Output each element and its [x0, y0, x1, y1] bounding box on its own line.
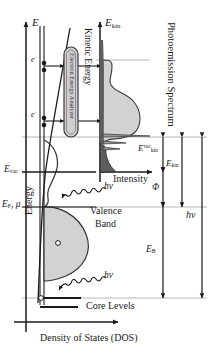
spectrum-axis-top-subscript: kin	[112, 22, 121, 29]
electron-label-2: e−	[31, 111, 37, 119]
left-axis-top-label: E	[32, 17, 39, 28]
electron-energy-analyzer-label: Electron Energy Analyzer	[68, 53, 74, 119]
photoemission-spectrum-label: Photoemission Spectrum	[166, 22, 177, 127]
photon-label-1: hν	[104, 182, 113, 192]
intensity-axis-label: Intensity	[113, 174, 148, 184]
spectrum-axis-top-label: Ekin	[105, 17, 120, 29]
electron-charge-2: −	[35, 110, 38, 115]
valence-band-label-line2: Band	[95, 219, 116, 229]
electron-charge-1: −	[35, 55, 38, 60]
e-vac-subscript: vac	[10, 168, 18, 174]
valence-band-label-line1: Valence	[90, 206, 122, 216]
e-vac-label: Evac	[4, 165, 18, 175]
photon-label-3: hν	[104, 271, 113, 281]
ekin-vac-superscript: vac	[144, 143, 151, 149]
valence-band-dos	[44, 207, 88, 281]
eb-subscript: B	[152, 248, 156, 254]
chemical-potential-symbol: , μ	[11, 199, 21, 209]
ekin-vac-subscript: kin	[151, 147, 158, 153]
e-fermi-label: EF, μ	[2, 200, 21, 210]
electron-label-1: e−	[31, 56, 37, 64]
photoelectron-markers	[42, 61, 64, 128]
spectrum-axis-top-symbol: E	[105, 16, 112, 28]
ekin-subscript: kin	[172, 162, 179, 168]
dos-axis-label: Density of States (DOS)	[40, 333, 138, 343]
measure-label-binding-energy: EB	[146, 245, 156, 255]
core-level-lines	[40, 298, 81, 307]
measure-label-work-function: Φ	[152, 183, 159, 193]
spectrum-valence-peak	[103, 60, 140, 143]
left-axis-vertical-label: Energy	[24, 186, 34, 215]
valence-hole-marker	[56, 241, 61, 246]
measure-label-photon-energy: hν	[186, 210, 195, 220]
photoemission-diagram: E Ekin Photoemission Spectrum Kinetic En…	[0, 0, 221, 354]
kinetic-energy-label: Kinetic Energy	[83, 28, 93, 86]
measure-label-ekin-vac: Evackin	[138, 144, 158, 154]
core-levels-label: Core Levels	[86, 301, 135, 311]
dos-tail-curve	[44, 140, 58, 207]
core-hole-marker	[39, 296, 44, 301]
measure-label-ekin: Ekin	[166, 159, 179, 169]
